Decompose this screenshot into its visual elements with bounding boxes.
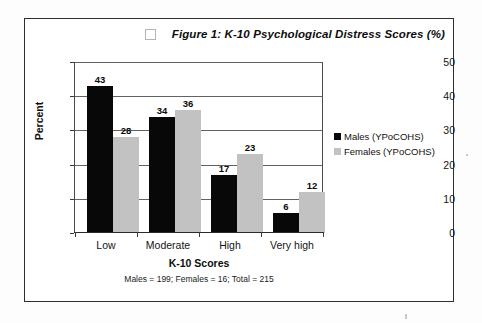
y-tick-label-50: 50 (415, 56, 455, 68)
bar-value-high-females: 23 (233, 142, 267, 153)
bar-value-high-males: 17 (207, 163, 241, 174)
figure-title-row: Figure 1: K-10 Psychological Distress Sc… (25, 23, 453, 45)
empty-checkbox-icon[interactable] (145, 29, 156, 40)
y-tick-mark (70, 233, 74, 234)
bar-chart: Percent 0 10 20 30 40 50 (25, 45, 455, 301)
bars-layer: 43 28 34 36 17 23 (75, 62, 323, 233)
scan-speck (405, 314, 407, 319)
x-tick-mark (199, 232, 200, 237)
y-tick-label-40: 40 (415, 90, 455, 102)
bar-value-very-high-males: 6 (269, 201, 303, 212)
bar-value-low-males: 43 (83, 74, 117, 85)
bar-low-males[interactable] (87, 86, 113, 233)
bar-moderate-females[interactable] (175, 110, 201, 233)
x-axis-title: K-10 Scores (74, 257, 324, 269)
y-tick-label-20: 20 (415, 159, 455, 171)
scan-speck (466, 154, 468, 156)
scanned-page-background: Figure 1: K-10 Psychological Distress Sc… (0, 0, 482, 323)
chart-legend: Males (YPoCOHS) Females (YPoCOHS) (334, 129, 454, 159)
x-tick-mark (75, 232, 76, 237)
legend-label-males: Males (YPoCOHS) (344, 131, 424, 142)
bar-low-females[interactable] (113, 137, 139, 233)
figure-frame: Figure 1: K-10 Psychological Distress Sc… (24, 18, 454, 302)
bar-very-high-females[interactable] (299, 192, 325, 233)
bar-moderate-males[interactable] (149, 117, 175, 233)
bar-value-low-females: 28 (109, 125, 143, 136)
bar-group-very-high: 6 12 (273, 62, 325, 233)
x-tick-mark (137, 232, 138, 237)
x-tick-mark (323, 232, 324, 237)
chart-note: Males = 199; Females = 16; Total = 215 (54, 274, 344, 284)
bar-high-males[interactable] (211, 175, 237, 233)
bar-group-moderate: 34 36 (149, 62, 201, 233)
bar-group-low: 43 28 (87, 62, 139, 233)
legend-item-females[interactable]: Females (YPoCOHS) (334, 144, 454, 158)
bar-value-moderate-females: 36 (171, 98, 205, 109)
x-category-very-high: Very high (252, 239, 332, 251)
legend-label-females: Females (YPoCOHS) (344, 146, 435, 157)
bar-very-high-males[interactable] (273, 213, 299, 234)
legend-item-males[interactable]: Males (YPoCOHS) (334, 129, 454, 143)
bar-value-very-high-females: 12 (295, 180, 329, 191)
legend-swatch-males-icon (334, 133, 341, 140)
y-axis-title: Percent (33, 102, 45, 141)
y-tick-label-0: 0 (415, 227, 455, 239)
bar-group-high: 17 23 (211, 62, 263, 233)
y-tick-label-10: 10 (415, 193, 455, 205)
figure-title: Figure 1: K-10 Psychological Distress Sc… (172, 28, 445, 40)
x-tick-mark (261, 232, 262, 237)
legend-swatch-females-icon (334, 148, 341, 155)
